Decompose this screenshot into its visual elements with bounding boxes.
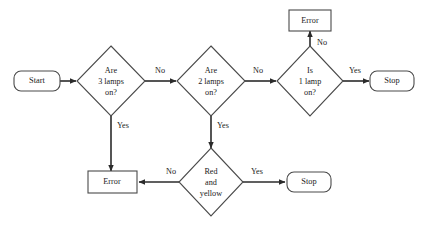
edge-red-yellow-no-to-error: No — [139, 167, 179, 182]
node-label-line-2: 1 lamp — [299, 77, 322, 86]
edge-label-no: No — [166, 167, 176, 176]
edge-label-no: No — [253, 66, 263, 75]
edge-d3-yes-to-stop: Yes — [343, 66, 369, 81]
node-label-line-3: yellow — [200, 189, 222, 198]
node-label-line-1: Are — [105, 66, 118, 75]
edge-d3-no-to-error-top: No — [310, 31, 327, 47]
node-error-top[interactable]: Error — [289, 10, 331, 31]
node-layer: Start Are 3 lamps on? Are 2 lamps on? Is… — [14, 10, 414, 216]
node-label-stop-right: Stop — [384, 76, 399, 85]
node-label-error-top: Error — [301, 16, 319, 25]
node-stop-right[interactable]: Stop — [370, 71, 414, 91]
node-label-stop-bottom: Stop — [301, 177, 316, 186]
flowchart-svg: No Yes No Yes No Yes — [0, 0, 421, 227]
node-label-line-3: on? — [304, 88, 316, 97]
edge-d2-yes-to-red-yellow: Yes — [211, 116, 229, 148]
edge-label-yes: Yes — [117, 121, 129, 130]
node-are-2-lamps-on[interactable]: Are 2 lamps on? — [177, 46, 245, 116]
edge-label-no: No — [317, 38, 327, 47]
node-red-and-yellow[interactable]: Red and yellow — [179, 148, 243, 216]
edge-label-yes: Yes — [349, 66, 361, 75]
node-label-line-1: Red — [204, 167, 217, 176]
node-error-bottom[interactable]: Error — [88, 171, 137, 193]
edge-label-yes: Yes — [251, 167, 263, 176]
node-label-start: Start — [29, 76, 45, 85]
node-label-line-2: and — [205, 178, 217, 187]
edge-label-yes: Yes — [217, 121, 229, 130]
node-start[interactable]: Start — [14, 71, 60, 91]
node-label-line-1: Are — [205, 66, 218, 75]
node-label-line-2: 2 lamps — [198, 77, 224, 86]
flowchart-canvas: No Yes No Yes No Yes — [0, 0, 421, 227]
node-label-line-3: on? — [205, 88, 217, 97]
edge-d1-no-to-d2: No — [145, 66, 176, 81]
node-label-line-1: Is — [307, 66, 313, 75]
edge-red-yellow-yes-to-stop: Yes — [243, 167, 285, 182]
node-are-3-lamps-on[interactable]: Are 3 lamps on? — [77, 46, 145, 116]
edge-label-no: No — [155, 66, 165, 75]
edge-d2-no-to-d3: No — [245, 66, 276, 81]
node-label-error-bottom: Error — [103, 177, 121, 186]
node-label-line-2: 3 lamps — [98, 77, 124, 86]
node-stop-bottom[interactable]: Stop — [287, 172, 331, 192]
node-is-1-lamp-on[interactable]: Is 1 lamp on? — [277, 46, 343, 116]
edge-d1-yes-to-error: Yes — [111, 116, 129, 171]
node-label-line-3: on? — [105, 88, 117, 97]
